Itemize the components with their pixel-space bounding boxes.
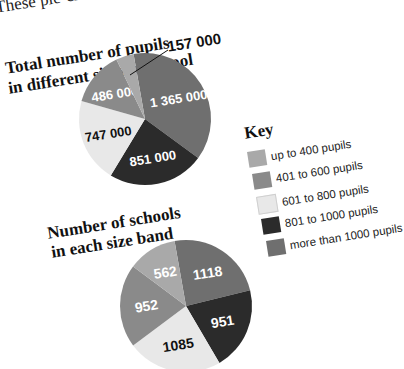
swatch-401-600	[252, 171, 272, 190]
swatch-801-1000	[261, 216, 281, 235]
swatch-more-than-1000	[266, 238, 286, 257]
swatch-601-800	[256, 194, 279, 215]
swatch-up-to-400	[247, 149, 267, 168]
